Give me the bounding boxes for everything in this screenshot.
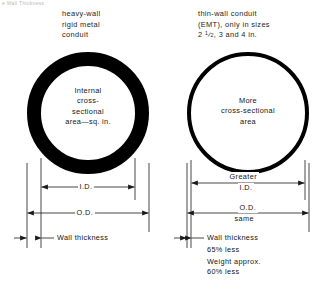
left-label-wall-thickness: Wall thickness — [57, 233, 108, 243]
right-circle-area-label: More cross-sectional area — [193, 96, 303, 127]
right-label-inner-diameter-line-1: Greater — [230, 172, 258, 182]
right-heading-line-1: thin-wall conduit — [198, 9, 270, 20]
right-label-inner-diameter-value: I.D. — [238, 183, 254, 193]
conduit-comparison-diagram — [0, 0, 314, 289]
conduit-size-fraction: 1/2 — [205, 32, 214, 38]
right-circle-text-line-3: area — [193, 117, 303, 127]
right-circle-text-line-1: More — [193, 96, 303, 106]
right-note-weight-label: Weight approx. — [207, 257, 261, 267]
left-figure-heading: heavy-wall rigid metal conduit — [62, 9, 100, 41]
right-heading-line-2: (EMT), only in sizes — [198, 20, 270, 31]
right-note-wall-thickness-reduction: 65% less — [207, 245, 239, 255]
left-label-outer-diameter: O.D. — [75, 208, 95, 218]
left-circle-text-line-1: Internal — [47, 86, 129, 96]
right-label-outer-diameter: O.D. — [238, 203, 258, 213]
right-circle-text-line-2: cross-sectional — [193, 106, 303, 116]
left-circle-text-line-4: area—sq. in. — [47, 117, 129, 127]
scan-caption-fragment: e Wall Thickness — [2, 0, 44, 6]
right-note-weight-reduction: 60% less — [207, 267, 239, 277]
left-circle-text-line-3: sectional — [47, 107, 129, 117]
right-label-wall-thickness: Wall thickness — [207, 233, 258, 243]
left-label-inner-diameter: I.D. — [78, 182, 94, 192]
left-heading-line-1: heavy-wall — [62, 9, 100, 20]
right-label-outer-diameter-note: same — [233, 214, 255, 224]
left-circle-text-line-2: cross- — [47, 96, 129, 106]
left-heading-line-2: rigid metal — [62, 20, 100, 31]
left-circle-area-label: Internal cross- sectional area—sq. in. — [47, 86, 129, 128]
right-figure-heading: thin-wall conduit (EMT), only in sizes 2… — [198, 9, 270, 41]
right-heading-line-3: 2 1/2, 3 and 4 in. — [198, 30, 270, 41]
right-label-inner-diameter: Greater — [228, 172, 259, 182]
left-heading-line-3: conduit — [62, 30, 100, 41]
